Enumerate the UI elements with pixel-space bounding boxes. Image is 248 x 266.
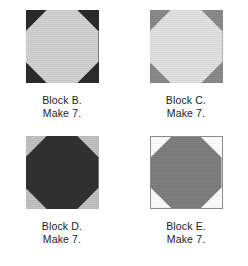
quilt-block-b bbox=[26, 10, 99, 83]
block-quantity-e: Make 7. bbox=[166, 233, 206, 246]
quilt-block-e bbox=[150, 136, 223, 209]
block-figure-c: Block C. Make 7. bbox=[124, 10, 248, 136]
octagon-shape-d bbox=[26, 136, 99, 209]
block-label-e: Block E. bbox=[166, 220, 206, 233]
diagram-sheet: Block B. Make 7. Block C. Make 7. Block … bbox=[0, 0, 248, 266]
block-label-c: Block C. bbox=[166, 94, 206, 107]
block-figure-b: Block B. Make 7. bbox=[0, 10, 124, 136]
octagon-shape-b bbox=[26, 10, 99, 83]
block-quantity-b: Make 7. bbox=[42, 107, 82, 120]
block-caption-b: Block B. Make 7. bbox=[42, 94, 82, 119]
octagon-shape-c bbox=[150, 10, 223, 83]
block-label-b: Block B. bbox=[42, 94, 82, 107]
octagon-shape-e bbox=[151, 137, 222, 208]
block-caption-d: Block D. Make 7. bbox=[42, 220, 82, 245]
quilt-block-d bbox=[26, 136, 99, 209]
quilt-block-c bbox=[150, 10, 223, 83]
block-caption-e: Block E. Make 7. bbox=[166, 220, 206, 245]
block-quantity-c: Make 7. bbox=[166, 107, 206, 120]
block-quantity-d: Make 7. bbox=[42, 233, 82, 246]
block-grid: Block B. Make 7. Block C. Make 7. Block … bbox=[0, 0, 248, 266]
block-caption-c: Block C. Make 7. bbox=[166, 94, 206, 119]
block-figure-d: Block D. Make 7. bbox=[0, 136, 124, 262]
block-label-d: Block D. bbox=[42, 220, 82, 233]
block-figure-e: Block E. Make 7. bbox=[124, 136, 248, 262]
